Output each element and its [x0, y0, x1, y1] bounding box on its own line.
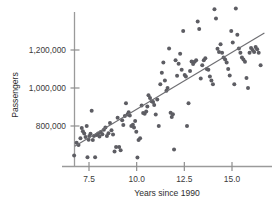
scatter-point	[144, 110, 148, 114]
x-axis-title: Years since 1990	[134, 188, 200, 198]
x-tick-labels: 7.510.012.515.0	[83, 174, 240, 184]
scatter-point	[171, 112, 175, 116]
scatter-point	[85, 124, 89, 128]
scatter-point	[134, 130, 138, 134]
scatter-point	[257, 51, 261, 55]
scatter-point	[199, 77, 203, 81]
scatter-point	[200, 63, 204, 67]
scatter-point	[154, 113, 158, 117]
scatter-point	[203, 56, 207, 60]
scatter-point	[226, 67, 230, 71]
scatter-point	[234, 7, 238, 11]
x-tick-label: 15.0	[224, 174, 241, 184]
scatter-point	[172, 148, 176, 152]
scatter-point	[91, 138, 95, 142]
scatter-point	[133, 119, 137, 123]
scatter-point	[246, 86, 250, 90]
scatter-point	[220, 51, 224, 55]
y-axis-title: Passengers	[10, 72, 20, 117]
scatter-point	[188, 69, 192, 73]
scatter-point	[145, 105, 149, 109]
scatter-point	[178, 52, 182, 56]
x-tick-label: 7.5	[83, 174, 95, 184]
scatter-point	[85, 155, 89, 159]
scatter-point	[208, 75, 212, 79]
scatter-point	[106, 131, 110, 135]
scatter-point	[196, 20, 200, 24]
scatter-point	[185, 124, 189, 128]
scatter-point	[100, 132, 104, 136]
scatter-point	[121, 123, 125, 127]
scatter-point	[181, 29, 185, 33]
scatter-point	[167, 46, 171, 50]
scatter-point	[111, 133, 115, 137]
scatter-point	[93, 155, 97, 159]
scatter-point	[138, 136, 142, 140]
scatter-point	[206, 68, 210, 72]
scatter-points-group	[72, 7, 262, 160]
scatter-point	[252, 50, 256, 54]
scatter-point	[211, 82, 215, 86]
scatter-point	[225, 61, 229, 65]
scatter-plot-figure: 800,0001,000,0001,200,000 7.510.012.515.…	[0, 0, 278, 208]
y-tick-label: 1,200,000	[29, 45, 67, 55]
scatter-point	[174, 58, 178, 62]
scatter-point	[160, 71, 164, 75]
scatter-point	[235, 33, 239, 37]
scatter-point	[124, 101, 128, 105]
y-tick-label: 800,000	[36, 121, 67, 131]
scatter-point	[163, 78, 167, 82]
scatter-point	[212, 7, 216, 11]
scatter-point	[231, 40, 235, 44]
scatter-point	[177, 62, 181, 66]
scatter-point	[238, 51, 242, 55]
scatter-point	[135, 156, 139, 160]
scatter-point	[248, 51, 252, 55]
chart-canvas: 800,0001,000,0001,200,000 7.510.012.515.…	[0, 0, 278, 208]
scatter-point	[209, 78, 213, 82]
y-tick-labels: 800,0001,000,0001,200,000	[29, 45, 67, 131]
scatter-point	[80, 126, 84, 130]
scatter-point	[259, 63, 263, 67]
scatter-point	[244, 76, 248, 80]
scatter-point	[232, 82, 236, 86]
scatter-point	[184, 75, 188, 79]
y-tick-label: 1,000,000	[29, 83, 67, 93]
scatter-point	[197, 27, 201, 31]
scatter-point	[161, 61, 165, 65]
x-tick-label: 12.5	[176, 174, 193, 184]
scatter-point	[113, 149, 117, 153]
scatter-point	[194, 58, 198, 62]
scatter-point	[157, 124, 161, 128]
scatter-point	[110, 128, 114, 132]
scatter-point	[180, 68, 184, 72]
scatter-point	[175, 74, 179, 78]
scatter-point	[132, 126, 136, 130]
scatter-point	[255, 47, 259, 51]
scatter-point	[229, 29, 233, 33]
scatter-point	[243, 60, 247, 64]
scatter-point	[72, 153, 76, 157]
scatter-point	[119, 148, 123, 152]
scatter-point	[158, 82, 162, 86]
scatter-point	[90, 109, 94, 113]
scatter-point	[82, 132, 86, 136]
scatter-point	[117, 145, 121, 149]
scatter-point	[228, 73, 232, 77]
x-tick-label: 10.0	[129, 174, 146, 184]
scatter-point	[148, 96, 152, 100]
scatter-point	[78, 136, 82, 140]
scatter-point	[152, 103, 156, 107]
scatter-point	[214, 16, 218, 20]
scatter-point	[219, 42, 223, 46]
scatter-point	[187, 101, 191, 105]
x-axis	[62, 162, 272, 171]
